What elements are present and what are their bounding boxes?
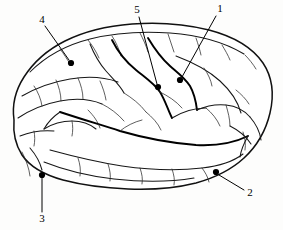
marker-dot-5[interactable] bbox=[155, 84, 161, 90]
callout-3[interactable]: 3 bbox=[39, 172, 45, 224]
marker-dot-2[interactable] bbox=[213, 169, 219, 175]
callout-label-1: 1 bbox=[217, 2, 223, 14]
marker-dot-4[interactable] bbox=[68, 60, 74, 66]
marker-dot-1[interactable] bbox=[177, 77, 183, 83]
callout-label-5: 5 bbox=[134, 3, 140, 15]
callout-label-4: 4 bbox=[39, 13, 45, 25]
marker-dot-3[interactable] bbox=[39, 172, 45, 178]
brain-lateral-illustration: 12345 bbox=[0, 0, 283, 230]
leader-line-2 bbox=[219, 175, 244, 190]
callout-label-3: 3 bbox=[39, 212, 45, 224]
callout-label-2: 2 bbox=[247, 186, 253, 198]
brain-diagram-figure: 12345 bbox=[0, 0, 283, 230]
